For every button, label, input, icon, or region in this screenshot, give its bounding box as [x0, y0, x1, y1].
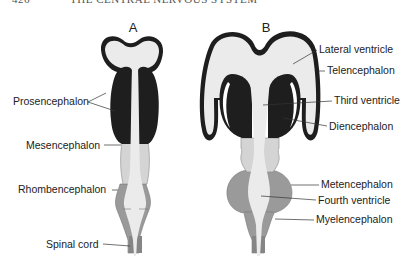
label-fourth-ventricle: Fourth ventricle [318, 194, 391, 206]
brain-vesicles-diagram: A Prosencephalon Mesencephalon Rhombence… [0, 0, 413, 269]
label-third-ventricle: Third ventricle [334, 94, 400, 106]
label-diencephalon: Diencephalon [329, 120, 393, 132]
spinal-cord-b-left [252, 236, 257, 253]
spinal-cord-right [137, 236, 142, 253]
panel-a-label: A [129, 20, 138, 35]
label-telencephalon: Telencephalon [327, 64, 395, 76]
label-lateral-ventricle: Lateral ventricle [319, 43, 393, 55]
label-mesencephalon: Mesencephalon [26, 139, 100, 151]
leader-myelencephalon [275, 219, 314, 220]
label-spinal-cord: Spinal cord [46, 238, 99, 250]
label-rhombencephalon: Rhombencephalon [18, 183, 106, 195]
panel-b-label: B [262, 20, 271, 35]
label-myelencephalon: Myelencephalon [316, 213, 393, 225]
leader-spinal-cord [103, 244, 130, 246]
label-prosencephalon: Prosencephalon [13, 95, 89, 107]
panel-a: A Prosencephalon Mesencephalon Rhombence… [13, 20, 163, 256]
panel-b: B Lateral ventricle Telencephalon Third … [200, 20, 400, 256]
label-metencephalon: Metencephalon [321, 178, 393, 190]
